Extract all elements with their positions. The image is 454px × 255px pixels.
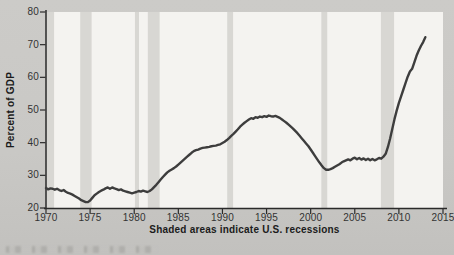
x-tick-label: 1990 [211, 212, 234, 224]
x-tick-label: 2015 [431, 212, 454, 224]
x-tick-label: 2010 [387, 212, 410, 224]
recession-band [80, 12, 91, 208]
y-tick-label: 60 [0, 71, 39, 83]
recession-band [135, 12, 139, 208]
y-tick-label: 40 [0, 137, 39, 149]
y-tick-label: 30 [0, 169, 39, 181]
y-tick-label: 70 [0, 39, 39, 51]
recession-band [227, 12, 233, 208]
recession-band [148, 12, 160, 208]
x-tick-label: 1980 [123, 212, 146, 224]
recession-band [46, 12, 54, 208]
x-tick-label: 1985 [167, 212, 190, 224]
x-tick-label: 2000 [299, 212, 322, 224]
recession-band [321, 12, 327, 208]
x-tick-label: 1995 [255, 212, 278, 224]
y-tick-label: 50 [0, 104, 39, 116]
cropped-text-fragment [6, 246, 158, 253]
x-tick-label: 2005 [343, 212, 366, 224]
debt-gdp-chart-figure: Percent of GDP Shaded areas indicate U.S… [0, 0, 454, 255]
x-tick-label: 1970 [34, 212, 57, 224]
y-tick-label: 20 [0, 202, 39, 214]
recession-shading-note: Shaded areas indicate U.S. recessions [46, 224, 443, 235]
recession-band [381, 12, 394, 208]
x-tick-label: 1975 [79, 212, 102, 224]
y-tick-label: 80 [0, 6, 39, 18]
